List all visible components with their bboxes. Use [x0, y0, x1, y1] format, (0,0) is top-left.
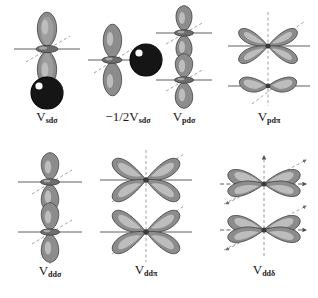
label-symbol: V	[36, 109, 45, 124]
panel-dd-pi: Vddπ	[98, 150, 194, 286]
label-symbol: V	[129, 109, 138, 124]
p-orbital-waist-highlight	[178, 31, 185, 34]
panel-label-dd-pi: Vddπ	[98, 262, 194, 278]
p-orbital	[102, 24, 122, 96]
label-prefix: −1/2	[105, 109, 129, 124]
label-subscript: ddπ	[144, 269, 157, 278]
p-lobe-top-highlight	[42, 20, 49, 35]
p-lobe-bottom-highlight	[42, 63, 49, 78]
d-lobe-bottom-highlight	[179, 89, 185, 102]
d-lower-lobe-top-highlight	[45, 211, 51, 224]
d-four-lobe-horizontal-upper	[228, 169, 300, 196]
panel-label-dd-delta: Vddδ	[214, 262, 314, 278]
sphere-specular-highlight	[35, 82, 42, 89]
d-lower-lobe-bottom-highlight	[45, 242, 51, 255]
d-lower-center	[261, 227, 266, 232]
orbital-diagram-dd-pi	[98, 150, 194, 262]
p-orbital-upper	[36, 12, 58, 86]
d-upper-lobe-top-highlight	[45, 161, 51, 174]
panel-pd-pi: Vpdπ	[224, 8, 314, 134]
panel-label-pd-pi: Vpdπ	[224, 109, 314, 125]
p-lobe-bottom-highlight	[179, 41, 185, 53]
p-orbital-center-lower	[266, 84, 271, 89]
d-lower-waist-highlight	[44, 230, 51, 233]
p-lobe-top-highlight	[107, 32, 113, 46]
d-lower-center	[143, 229, 149, 235]
panel-label-dd-sigma: Vddσ	[14, 263, 86, 279]
d-upper-center	[261, 181, 266, 186]
p-lobe-top-highlight	[179, 12, 185, 24]
d-orbital-waist-highlight	[178, 78, 185, 81]
p-orbital-waist	[36, 45, 58, 52]
d-z2-orbital-lower	[41, 203, 60, 263]
orbital-diagram-dd-delta	[214, 152, 314, 262]
panel-label-pd-sigma: Vpdσ	[148, 109, 220, 125]
label-symbol: V	[253, 262, 262, 277]
d-upper-center	[143, 177, 149, 183]
p-orbital-waist-highlight	[105, 58, 112, 61]
label-subscript: ddσ	[48, 270, 61, 279]
d-orbital-center-upper	[265, 43, 270, 48]
label-symbol: V	[173, 109, 182, 124]
orbital-diagram-sd-sigma	[8, 8, 86, 110]
label-subscript: pdσ	[182, 116, 195, 125]
label-subscript: ddδ	[262, 269, 275, 278]
p-orbital-upper	[175, 6, 194, 60]
p-orbital-waist-highlight	[39, 47, 47, 50]
label-symbol: V	[135, 262, 144, 277]
panel-sd-sigma: Vsdσ	[8, 8, 86, 133]
label-subscript: sdσ	[46, 116, 58, 125]
sphere-body	[31, 77, 63, 109]
panel-dd-sigma: Vddσ	[14, 152, 86, 286]
d-upper-waist-highlight	[44, 180, 51, 183]
d-lobe-top-highlight	[179, 60, 185, 73]
orbital-diagram-pd-pi	[224, 8, 314, 110]
panel-pd-sigma: Vpdσ	[148, 6, 220, 134]
panel-dd-delta: Vddδ	[214, 152, 314, 286]
p-lobe-bottom-highlight	[107, 74, 113, 88]
d-z2-orbital-lower	[175, 54, 194, 109]
orbital-diagram-pd-sigma	[148, 6, 220, 110]
d-orbital-waist	[175, 77, 194, 83]
d-upper-lobe-bottom-highlight	[45, 191, 51, 204]
d-lower-waist	[41, 229, 60, 235]
label-subscript: pdπ	[267, 116, 280, 125]
panel-label-sd-sigma: Vsdσ	[8, 109, 86, 125]
p-orbital-waist	[175, 30, 194, 36]
orbital-diagram-dd-sigma	[14, 152, 86, 264]
label-symbol: V	[258, 109, 267, 124]
label-symbol: V	[39, 263, 48, 278]
s-orbital-sphere	[31, 77, 63, 109]
p-orbital-waist	[102, 57, 122, 64]
d-upper-waist	[41, 179, 60, 185]
sphere-specular-highlight	[135, 49, 142, 56]
